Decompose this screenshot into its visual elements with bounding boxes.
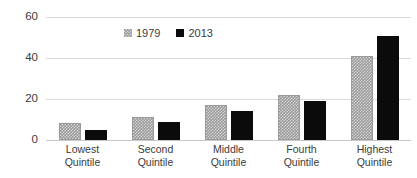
legend-swatch-1979-icon xyxy=(124,29,132,37)
x-tick-label-1: SecondQuintile xyxy=(119,143,192,168)
bar-1979-0[interactable] xyxy=(59,123,81,140)
legend-entry-1979[interactable]: 1979 xyxy=(124,27,160,39)
legend-entry-2013[interactable]: 2013 xyxy=(176,27,212,39)
legend-label: 2013 xyxy=(188,27,212,39)
bar-1979-3[interactable] xyxy=(278,95,300,140)
bar-1979-2[interactable] xyxy=(205,105,227,140)
y-tick-label-40: 40 xyxy=(0,52,38,64)
x-tick-label-4: HighestQuintile xyxy=(338,143,411,168)
bar-2013-2[interactable] xyxy=(231,111,253,140)
y-axis-labels: 0204060 xyxy=(0,17,40,140)
x-tick-label-3: FourthQuintile xyxy=(265,143,338,168)
bar-1979-4[interactable] xyxy=(351,56,373,140)
bar-group xyxy=(265,17,338,140)
bar-1979-1[interactable] xyxy=(132,117,154,140)
y-tick-label-60: 60 xyxy=(0,11,38,23)
x-axis-labels: LowestQuintileSecondQuintileMiddleQuinti… xyxy=(46,143,411,168)
bar-chart: 0204060 LowestQuintileSecondQuintileMidd… xyxy=(0,0,417,178)
legend-label: 1979 xyxy=(136,27,160,39)
bar-group xyxy=(338,17,411,140)
bar-2013-0[interactable] xyxy=(85,130,107,140)
gridline-0 xyxy=(46,140,411,141)
bar-2013-1[interactable] xyxy=(158,122,180,140)
bar-group xyxy=(46,17,119,140)
bar-2013-3[interactable] xyxy=(304,101,326,140)
y-tick-label-20: 20 xyxy=(0,93,38,105)
legend-swatch-2013-icon xyxy=(176,29,184,37)
bar-groups xyxy=(46,17,411,140)
chart-legend: 19792013 xyxy=(124,27,213,39)
x-tick-label-2: MiddleQuintile xyxy=(192,143,265,168)
y-tick-label-0: 0 xyxy=(0,134,38,146)
plot-area xyxy=(46,17,411,140)
x-tick-label-0: LowestQuintile xyxy=(46,143,119,168)
bar-2013-4[interactable] xyxy=(377,36,399,140)
